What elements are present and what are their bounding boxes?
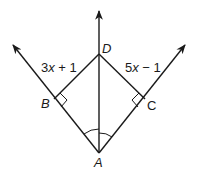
segment-label-BD: 3x + 1 xyxy=(41,61,77,74)
rest-CD: − 1 xyxy=(139,60,161,75)
angle-arc-DAC xyxy=(99,133,112,137)
point-label-D: D xyxy=(102,42,111,55)
segment-label-CD: 5x − 1 xyxy=(125,61,161,74)
point-label-A: A xyxy=(94,156,103,169)
geometry-diagram: D B C A 3x + 1 5x − 1 xyxy=(0,0,198,172)
diagram-svg xyxy=(0,0,198,172)
rest-BD: + 1 xyxy=(55,60,77,75)
angle-arc-BAD xyxy=(84,129,99,134)
point-label-C: C xyxy=(147,99,156,112)
point-label-B: B xyxy=(41,97,50,110)
